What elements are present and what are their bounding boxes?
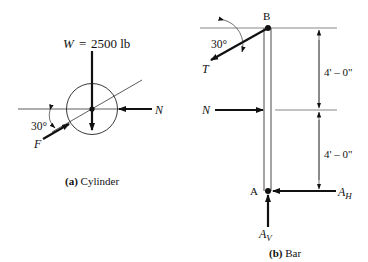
horizontal-reaction-label: AH [337,185,352,201]
friction-force-label: F [33,137,42,151]
bar-caption: (b) Bar [269,247,301,260]
angle-label: 30° [31,120,48,132]
vertical-reaction-label: AV [258,227,273,243]
weight-equals: = [79,36,86,51]
center-point [89,106,94,111]
upper-dimension-label: 4' – 0" [324,66,352,78]
incline-line [52,80,142,132]
horizontal-reaction-subscript: H [344,191,352,201]
normal-force-label: N [154,103,164,117]
weight-label: W [63,36,75,51]
point-b [265,25,271,31]
point-b-label: B [263,10,270,22]
bar-caption-text: Bar [282,247,301,259]
angle-arc [49,110,55,128]
lower-dimension-label: 4' – 0" [324,148,352,160]
point-a [265,188,271,194]
caption-text: Cylinder [78,175,120,187]
bar-normal-force-label: N [201,103,211,117]
bar-caption-prefix: (b) [269,247,283,260]
free-body-diagrams: W = 2500 lb N F 30° (a) Cylinder [0,0,368,262]
tension-label: T [202,62,210,76]
bar-angle-label: 30° [211,38,228,50]
vertical-reaction-subscript: V [266,233,273,243]
bar-diagram: B A T 30° N 4' – 0" 4' – 0" AH AV (b) Ba… [200,10,352,260]
caption-prefix: (a) [65,175,78,188]
caption: (a) Cylinder [65,175,119,188]
point-a-label: A [250,185,258,197]
weight-value: 2500 lb [91,36,130,51]
cylinder-diagram: W = 2500 lb N F 30° (a) Cylinder [18,36,164,188]
